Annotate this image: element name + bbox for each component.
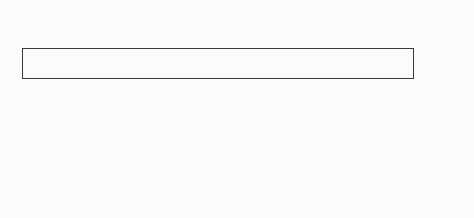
highlight-box bbox=[22, 48, 414, 79]
disease-burden-research-chart bbox=[0, 0, 474, 218]
